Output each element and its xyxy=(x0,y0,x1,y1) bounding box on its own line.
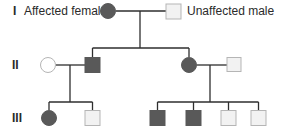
affected-male-symbol-III-4 xyxy=(186,111,201,126)
unaffected-male-symbol-II-4 xyxy=(227,58,241,72)
legend-unaffected-male: Unaffected male xyxy=(187,4,274,18)
unaffected-male-symbol-III-6 xyxy=(251,111,266,126)
generation-label-2: II xyxy=(12,58,19,72)
unaffected-male-symbol-I-2 xyxy=(166,4,181,19)
affected-female-symbol-III-1 xyxy=(42,111,57,126)
unaffected-female-symbol-II-1 xyxy=(41,58,56,73)
generation-label-3: III xyxy=(12,111,22,125)
pedigree-chart: I II III Affected female Unaffected male xyxy=(0,0,281,131)
affected-male-symbol-III-3 xyxy=(150,111,165,126)
generation-label-1: I xyxy=(13,4,16,18)
affected-female-symbol-I-1 xyxy=(101,4,116,19)
affected-male-symbol-II-2 xyxy=(85,58,100,73)
legend-affected-female: Affected female xyxy=(24,4,107,18)
unaffected-male-symbol-III-5 xyxy=(221,111,236,126)
unaffected-male-symbol-III-2 xyxy=(85,111,100,126)
affected-female-symbol-II-3 xyxy=(182,58,197,73)
